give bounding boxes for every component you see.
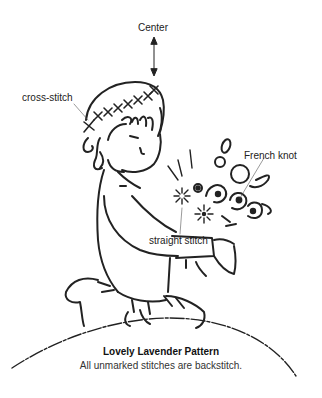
french-knot-label: French knot — [244, 150, 297, 161]
pattern-title: Lovely Lavender Pattern — [0, 346, 322, 357]
center-label: Center — [138, 22, 168, 33]
center-arrow-icon — [151, 37, 157, 76]
pattern-illustration — [0, 0, 322, 398]
straight-stitch-sparkles — [168, 150, 213, 223]
pattern-subtitle: All unmarked stitches are backstitch. — [0, 360, 322, 371]
body-outline — [97, 170, 235, 292]
straight-stitch-label: straight stitch — [149, 235, 208, 246]
cross-stitch-label: cross-stitch — [22, 92, 73, 103]
hair-outline — [86, 82, 164, 136]
face-outline — [84, 124, 161, 172]
